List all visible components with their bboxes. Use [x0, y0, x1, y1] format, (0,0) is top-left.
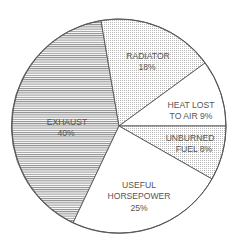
label-useful: USEFUL — [122, 180, 156, 190]
label-heat-lost-value: TO AIR 9% — [170, 111, 213, 121]
label-unburned-value: FUEL 8% — [176, 144, 213, 154]
label-unburned: UNBURNED — [166, 133, 215, 143]
label-exhaust: EXHAUST — [47, 117, 88, 127]
label-exhaust-value: 40% — [57, 128, 75, 138]
label-radiator-value: 18% — [138, 62, 156, 72]
label-radiator: RADIATOR — [126, 51, 170, 61]
label-heat-lost: HEAT LOST — [168, 100, 216, 110]
label-useful-horsepower: HORSEPOWER — [107, 191, 170, 201]
label-useful-value: 25% — [130, 203, 148, 213]
pie-chart: RADIATOR 18% HEAT LOST TO AIR 9% UNBURNE… — [0, 0, 241, 248]
